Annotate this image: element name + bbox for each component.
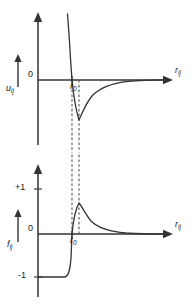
potential-y-axis-label: uij xyxy=(6,84,14,93)
potential-y-axis xyxy=(34,12,42,145)
figure-svg xyxy=(0,0,192,307)
interatomic-potential-and-force-figure: uij 0 r0 rij fij +1 0 -1 r0 rij xyxy=(0,0,192,307)
force-origin-label: 0 xyxy=(28,224,33,233)
chart-potential xyxy=(14,12,173,152)
potential-y-direction-arrow xyxy=(14,54,21,87)
force-y-axis-label: fij xyxy=(7,240,12,249)
potential-x-axis-label: rij xyxy=(175,66,181,75)
potential-r0-label: r0 xyxy=(70,82,77,91)
potential-origin-label: 0 xyxy=(28,70,33,79)
force-y-direction-arrow xyxy=(14,209,21,242)
force-x-axis-label: rij xyxy=(175,220,181,229)
force-minus1-label: -1 xyxy=(18,271,26,280)
force-r0-label: r0 xyxy=(70,236,77,245)
chart-force xyxy=(14,152,173,297)
force-curve xyxy=(38,203,165,277)
potential-curve xyxy=(68,14,166,120)
force-plus1-label: +1 xyxy=(15,183,25,192)
